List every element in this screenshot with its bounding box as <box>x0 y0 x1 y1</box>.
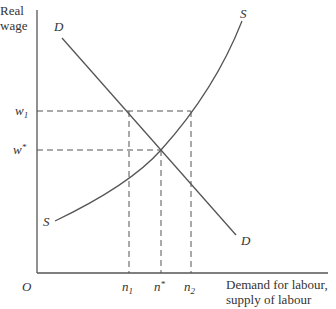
y-axis-label-line2: wage <box>0 18 28 33</box>
n1-label: n1 <box>122 279 133 296</box>
y-axis-label-line1: Real <box>0 3 24 18</box>
origin-label: O <box>22 279 32 294</box>
demand-curve <box>62 38 236 235</box>
w1-label: w1 <box>15 103 28 120</box>
supply-label-top: S <box>240 6 247 21</box>
x-axis-label-line1: Demand for labour, <box>226 277 328 292</box>
demand-label-top: D <box>53 19 64 34</box>
guide-lines <box>37 111 191 273</box>
x-axis-label-line2: supply of labour <box>226 292 312 307</box>
labour-market-diagram: Real wage D D S S w1 w* O n1 n* n2 Deman… <box>0 0 336 309</box>
supply-curve <box>55 21 242 221</box>
supply-label-bottom: S <box>43 214 50 229</box>
demand-label-bottom: D <box>240 233 251 248</box>
wstar-label: w* <box>13 142 27 157</box>
n2-label: n2 <box>184 279 196 296</box>
nstar-label: n* <box>154 279 166 294</box>
